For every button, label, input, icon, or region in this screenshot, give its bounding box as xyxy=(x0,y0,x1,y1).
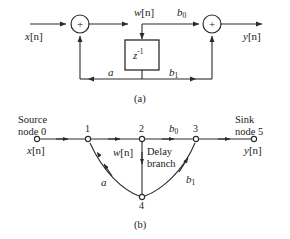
panel-a-input-label: x[n] xyxy=(25,31,43,42)
delay-block-label: z-1 xyxy=(133,50,144,61)
panel-b-source-line2: node 0 xyxy=(18,126,47,138)
panel-a-coefficient-b1: b1 xyxy=(169,67,178,78)
panel-a-coefficient-b0: b0 xyxy=(177,7,186,18)
panel-b-coefficient-b1: b1 xyxy=(186,174,195,185)
panel-b-node-1-number: 1 xyxy=(85,124,90,134)
panel-b-graphics xyxy=(34,136,256,199)
sfg-node-4 xyxy=(139,194,144,199)
panel-b-coefficient-a: a xyxy=(101,177,107,188)
panel-b-internal-signal-label: w[n] xyxy=(113,147,133,158)
panel-b-sink-line2: node 5 xyxy=(235,126,263,138)
panel-b-source-label: Source node 0 xyxy=(18,114,47,138)
panel-b-delay-branch-label: Delay branch xyxy=(147,146,176,170)
panel-b-output-label: y[n] xyxy=(244,145,262,156)
panel-a-output-label: y[n] xyxy=(243,31,261,42)
panel-b-sink-label: Sink node 5 xyxy=(235,114,263,138)
panel-a-coefficient-a: a xyxy=(108,67,114,78)
panel-b-coefficient-b0: b0 xyxy=(169,123,178,134)
panel-a-internal-signal-label: w[n] xyxy=(134,7,154,18)
sfg-node-2 xyxy=(139,136,144,141)
adder-left-plus-symbol: + xyxy=(77,19,83,30)
panel-b-caption: (b) xyxy=(134,220,146,231)
sfg-arrowhead-4-to-1 xyxy=(104,164,112,176)
panel-b-input-label: x[n] xyxy=(27,145,45,156)
panel-a-caption: (a) xyxy=(134,94,146,105)
adder-right-plus-symbol: + xyxy=(209,19,215,30)
sfg-node-1 xyxy=(85,136,90,141)
panel-b-node-3-number: 3 xyxy=(193,124,198,134)
panel-b-delay-line2: branch xyxy=(147,158,176,170)
sfg-arrowhead-4-to-3 xyxy=(179,158,188,172)
panel-b-delay-line1: Delay xyxy=(147,146,176,158)
panel-a-graphics xyxy=(30,15,262,79)
panel-b-node-2-number: 2 xyxy=(139,124,144,134)
panel-b-node-4-number: 4 xyxy=(139,201,144,211)
figure-container: + + x[n] w[n] b0 y[n] z-1 a b1 (a) Sourc… xyxy=(0,0,290,239)
panel-b-source-line1: Source xyxy=(18,114,47,126)
panel-b-sink-line1: Sink xyxy=(235,114,263,126)
sfg-node-3 xyxy=(193,136,198,141)
